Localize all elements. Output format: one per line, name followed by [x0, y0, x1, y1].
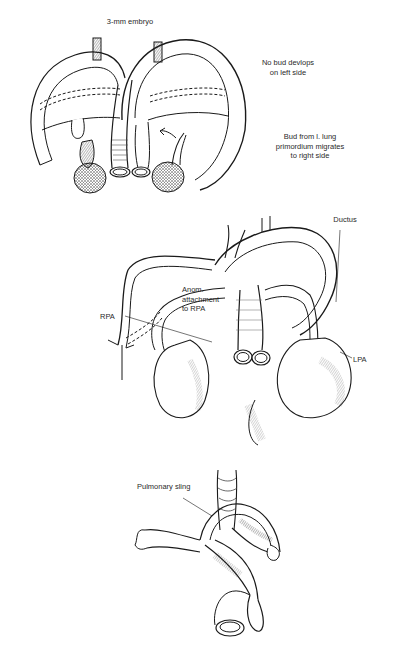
ductus-label: Ductus: [325, 215, 365, 225]
panel-a-right-side-note: Bud from l. lung primordium migrates to …: [265, 132, 355, 161]
note-line: primordium migrates: [265, 142, 355, 152]
note-line: Anom.: [182, 285, 219, 295]
note-line: on left side: [248, 68, 328, 78]
lpa-label: LPA: [353, 355, 367, 365]
panel-b-drawing: [108, 216, 351, 445]
anomalous-attachment-label: Anom. attachment to RPA: [182, 285, 219, 314]
panel-a-drawing: [31, 38, 246, 193]
note-line: attachment: [182, 295, 219, 305]
note-line: to right side: [265, 151, 355, 161]
note-line: Bud from l. lung: [265, 132, 355, 142]
note-line: to RPA: [182, 304, 219, 314]
panel-a-title: 3-mm embryo: [95, 17, 165, 27]
panel-c-drawing: [135, 470, 280, 636]
note-line: No bud devlops: [248, 58, 328, 68]
rpa-label: RPA: [100, 312, 115, 322]
figure-caption: [14, 643, 394, 650]
panel-a-left-side-note: No bud devlops on left side: [248, 58, 328, 77]
pulmonary-sling-label: Pulmonary sling: [137, 482, 190, 492]
embryology-illustration: [0, 0, 405, 650]
